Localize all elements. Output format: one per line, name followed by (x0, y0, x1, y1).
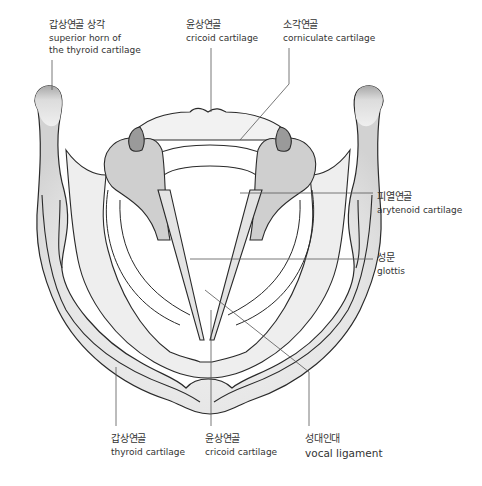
label-ko: 윤상연골 (186, 18, 258, 32)
label-cricoid-bottom: 윤상연골 cricoid cartilage (205, 432, 277, 458)
label-ko: 피열연골 (377, 190, 462, 204)
label-vocal-ligament: 성대인대 vocal ligament (305, 432, 383, 460)
label-en: vocal ligament (305, 446, 383, 460)
label-corniculate: 소각연골 corniculate cartilage (283, 18, 375, 44)
label-en: glottis (377, 265, 405, 277)
label-ko: 성대인대 (305, 432, 383, 446)
label-thyroid: 갑상연골 thyroid cartilage (111, 432, 185, 458)
label-en: corniculate cartilage (283, 32, 375, 44)
label-en: the thyroid cartilage (49, 44, 141, 56)
label-ko: 성문 (377, 251, 405, 265)
label-ko: 소각연골 (283, 18, 375, 32)
label-superior-horn: 갑상연골 상각 superior horn of the thyroid car… (49, 18, 141, 56)
label-ko: 갑상연골 (111, 432, 185, 446)
label-en: superior horn of (49, 32, 141, 44)
label-arytenoid: 피열연골 arytenoid cartilage (377, 190, 462, 216)
label-en: cricoid cartilage (186, 32, 258, 44)
larynx-diagram (0, 0, 482, 486)
label-glottis: 성문 glottis (377, 251, 405, 277)
label-ko: 갑상연골 상각 (49, 18, 141, 32)
label-en: thyroid cartilage (111, 446, 185, 458)
label-ko: 윤상연골 (205, 432, 277, 446)
label-en: arytenoid cartilage (377, 204, 462, 216)
label-cricoid-top: 윤상연골 cricoid cartilage (186, 18, 258, 44)
label-en: cricoid cartilage (205, 446, 277, 458)
